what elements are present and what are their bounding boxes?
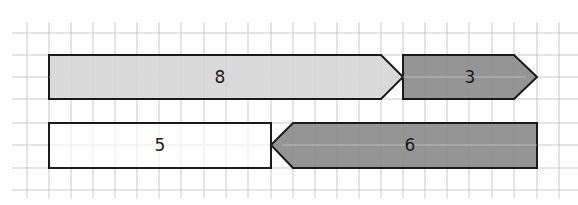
grid-diagram [0,0,578,205]
label-5: 5 [155,135,166,155]
label-8: 8 [215,67,226,87]
label-3: 3 [465,67,476,87]
label-6: 6 [405,135,416,155]
grid [12,22,578,198]
